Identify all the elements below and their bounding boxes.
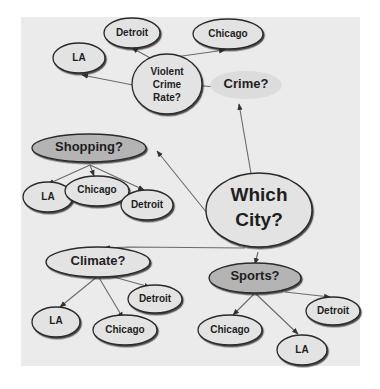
node-which-city[interactable]: Which City? [206,173,312,247]
node-label: Which [231,184,288,205]
edge-climate-la [60,276,98,307]
node-label: Violent [150,66,184,77]
node-label: LA [41,191,54,202]
node-climate[interactable]: Climate? [46,247,150,277]
node-label: Chicago [208,28,247,39]
node-label: City? [235,209,283,230]
node-violent-crime-rate[interactable]: Violent Crime Rate? [132,54,202,114]
node-shopping[interactable]: Shopping? [32,134,146,162]
node-label: Detroit [139,293,172,304]
decision-tree-diagram: Detroit Chicago LA Violent Crime Rate? C… [0,0,380,389]
node-detroit-crime[interactable]: Detroit [104,18,160,48]
node-label: LA [72,52,85,63]
node-detroit-climate[interactable]: Detroit [128,285,182,313]
node-la-sports[interactable]: LA [277,335,327,365]
node-chicago-shopping[interactable]: Chicago [65,176,129,206]
node-label: Shopping? [55,139,123,154]
node-la-shopping[interactable]: LA [23,182,73,212]
node-chicago-sports[interactable]: Chicago [198,315,262,345]
edge-climate-chicago [98,276,123,318]
node-label: Chicago [105,324,144,335]
node-label: Sports? [230,268,279,283]
edge-crime-la [82,75,133,85]
node-label: Detroit [116,27,149,38]
edge-root-climate [104,247,245,248]
node-label: Detroit [317,305,350,316]
node-label: Climate? [71,253,126,268]
edge-sports-detroit [285,292,330,297]
edge-root-sports [255,252,258,264]
node-label: Chicago [210,324,249,335]
node-sports[interactable]: Sports? [209,263,301,293]
node-label: LA [49,315,62,326]
node-chicago-climate[interactable]: Chicago [93,315,157,345]
node-crime[interactable]: Crime? [210,71,282,99]
node-label: Chicago [77,184,116,195]
node-detroit-shopping[interactable]: Detroit [121,190,173,220]
node-label: Rate? [153,92,181,103]
node-label: Crime? [224,76,269,91]
node-label: Crime [153,79,182,90]
node-chicago-crime[interactable]: Chicago [193,19,263,49]
node-la-climate[interactable]: LA [32,307,80,337]
edge-sports-chicago [233,294,254,315]
node-label: Detroit [131,199,164,210]
edge-climate-detroit [110,276,150,287]
node-la-crime[interactable]: LA [53,43,105,73]
node-detroit-sports[interactable]: Detroit [306,297,360,325]
node-label: LA [295,344,308,355]
